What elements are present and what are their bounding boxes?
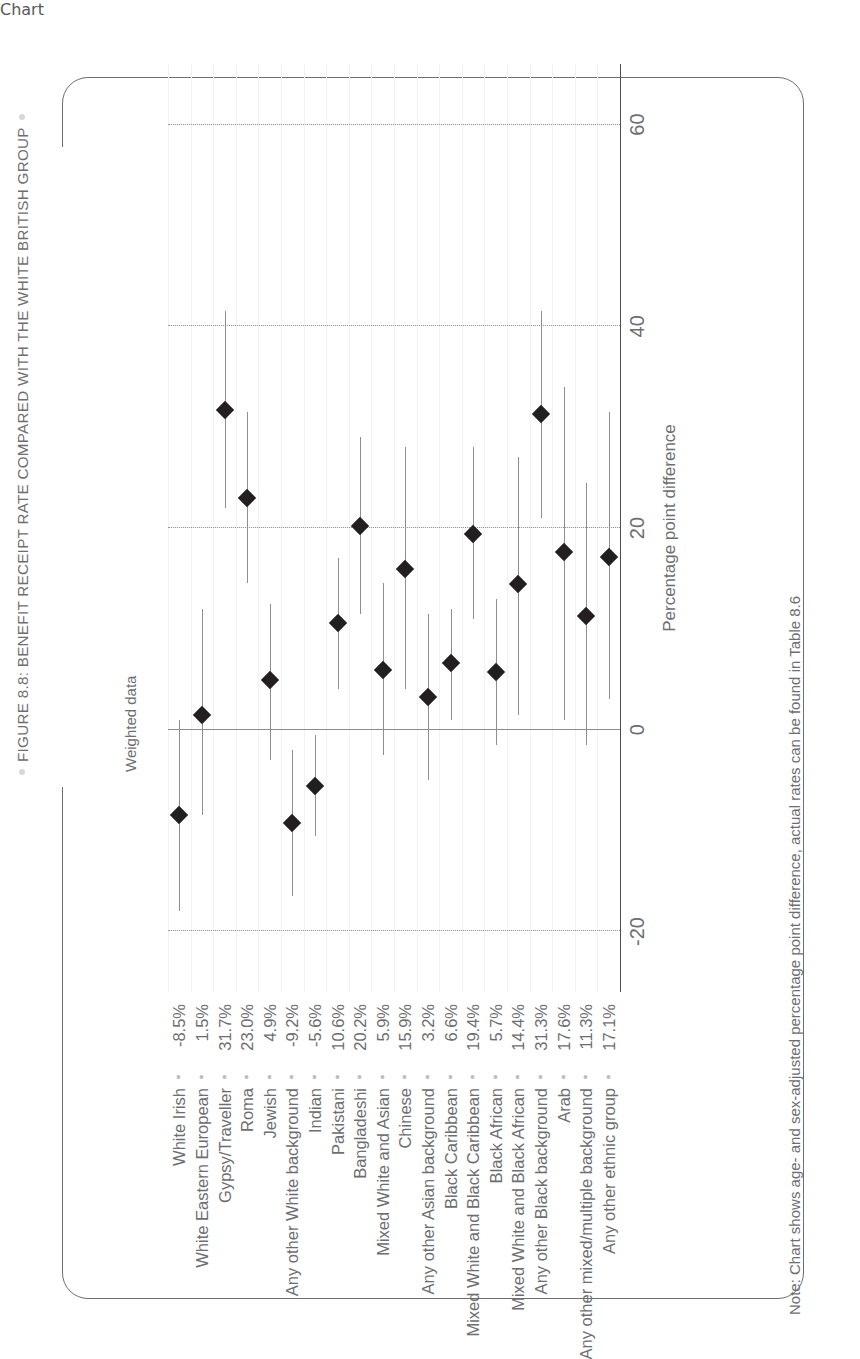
category-name: Gypsy/Traveller — [215, 1088, 234, 1203]
data-point-marker — [328, 614, 346, 632]
category-tick-label: Mixed White and Black Caribbean19.4% — [464, 1004, 483, 1337]
category-separator — [326, 64, 327, 992]
category-value-label: -9.2% — [283, 1004, 302, 1066]
category-tick-label: Pakistani10.6% — [328, 1004, 347, 1155]
category-name: Jewish — [260, 1088, 279, 1138]
reference-gridline — [168, 930, 620, 931]
category-separator — [236, 64, 237, 992]
category-separator — [597, 64, 598, 992]
category-separator — [213, 64, 214, 992]
data-point-marker — [554, 543, 572, 561]
category-name: Any other mixed/multiple background — [577, 1088, 596, 1359]
x-axis-tick-label: 60 — [626, 113, 649, 135]
x-axis-tick-label: -20 — [626, 917, 649, 946]
data-point-marker — [283, 813, 301, 831]
category-tick-label: Any other mixed/multiple background11.3% — [577, 1004, 596, 1359]
reference-gridline — [168, 527, 620, 528]
category-tick-label: Any other White background-9.2% — [283, 1004, 302, 1296]
category-separator — [281, 64, 282, 992]
category-name: Any other Black background — [531, 1088, 550, 1294]
data-point-marker — [260, 671, 278, 689]
category-tick-label: Chinese15.9% — [396, 1004, 415, 1149]
separator-dot-icon — [403, 1075, 407, 1079]
category-tick-label: Black African5.7% — [486, 1004, 505, 1183]
data-point-marker — [509, 575, 527, 593]
category-separator — [258, 64, 259, 992]
plot-panel — [168, 64, 620, 992]
category-value-label: 17.6% — [554, 1004, 573, 1066]
category-name: Roma — [238, 1088, 257, 1132]
separator-dot-icon — [380, 1075, 384, 1079]
category-name: White Eastern European — [192, 1088, 211, 1268]
separator-dot-icon — [177, 1075, 181, 1079]
category-tick-label: Mixed White and Black African14.4% — [509, 1004, 528, 1311]
category-tick-label: Indian-5.6% — [305, 1004, 324, 1133]
category-separator — [349, 64, 350, 992]
data-point-marker — [577, 607, 595, 625]
separator-dot-icon — [606, 1075, 610, 1079]
figure-title-text: FIGURE 8.8: BENEFIT RECEIPT RATE COMPARE… — [14, 127, 31, 762]
bullet-dot-icon — [19, 114, 25, 120]
category-name: Any other White background — [283, 1088, 302, 1296]
separator-dot-icon — [426, 1075, 430, 1079]
category-value-label: 15.9% — [396, 1004, 415, 1066]
separator-dot-icon — [200, 1075, 204, 1079]
data-point-marker — [486, 663, 504, 681]
category-tick-label: White Irish-8.5% — [170, 1004, 189, 1166]
category-name: Black Caribbean — [441, 1088, 460, 1209]
category-tick-label: Bangladeshi20.2% — [351, 1004, 370, 1179]
category-name: Chinese — [396, 1088, 415, 1149]
weighted-data-caption: Weighted data — [122, 676, 139, 772]
category-value-label: 31.3% — [531, 1004, 550, 1066]
data-point-marker — [170, 806, 188, 824]
category-separator — [417, 64, 418, 992]
data-point-marker — [351, 517, 369, 535]
category-value-label: 3.2% — [418, 1004, 437, 1066]
data-point-marker — [238, 489, 256, 507]
category-name: Mixed White and Black Caribbean — [464, 1088, 483, 1337]
category-separator — [530, 64, 531, 992]
category-value-label: 20.2% — [351, 1004, 370, 1066]
category-tick-label: White Eastern European1.5% — [192, 1004, 211, 1268]
category-value-label: -5.6% — [305, 1004, 324, 1066]
x-axis-tick-label: 20 — [626, 517, 649, 539]
data-point-marker — [373, 661, 391, 679]
data-point-marker — [419, 688, 437, 706]
category-separator — [394, 64, 395, 992]
reference-gridline — [168, 124, 620, 125]
category-separator — [439, 64, 440, 992]
category-value-label: 31.7% — [215, 1004, 234, 1066]
category-name: Black African — [486, 1088, 505, 1183]
category-value-label: 5.9% — [373, 1004, 392, 1066]
separator-dot-icon — [448, 1075, 452, 1079]
category-tick-label: Black Caribbean6.6% — [441, 1004, 460, 1209]
separator-dot-icon — [335, 1075, 339, 1079]
reference-gridline — [168, 325, 620, 326]
separator-dot-icon — [245, 1075, 249, 1079]
category-separator — [304, 64, 305, 992]
separator-dot-icon — [493, 1075, 497, 1079]
separator-dot-icon — [290, 1075, 294, 1079]
category-value-label: 17.1% — [599, 1004, 618, 1066]
category-separator — [507, 64, 508, 992]
separator-dot-icon — [267, 1075, 271, 1079]
category-separator — [575, 64, 576, 992]
category-value-label: 19.4% — [464, 1004, 483, 1066]
category-separator — [191, 64, 192, 992]
category-name: Mixed White and Asian — [373, 1088, 392, 1256]
category-tick-label: Roma23.0% — [238, 1004, 257, 1132]
figure-note: Note: Chart shows age- and sex-adjusted … — [786, 596, 803, 1315]
category-name: Pakistani — [328, 1088, 347, 1155]
x-axis-tick-label: 40 — [626, 315, 649, 337]
bullet-dot-icon — [19, 769, 25, 775]
category-separator — [552, 64, 553, 992]
category-name: Mixed White and Black African — [509, 1088, 528, 1311]
separator-dot-icon — [539, 1075, 543, 1079]
category-name: Indian — [305, 1088, 324, 1133]
separator-dot-icon — [471, 1075, 475, 1079]
rotated-stage: FIGURE 8.8: BENEFIT RECEIPT RATE COMPARE… — [0, 19, 860, 1352]
category-name: Any other ethnic group — [599, 1088, 618, 1254]
chart: -200204060 Percentage point difference W… — [168, 64, 678, 1308]
category-value-label: 5.7% — [486, 1004, 505, 1066]
category-separator — [484, 64, 485, 992]
